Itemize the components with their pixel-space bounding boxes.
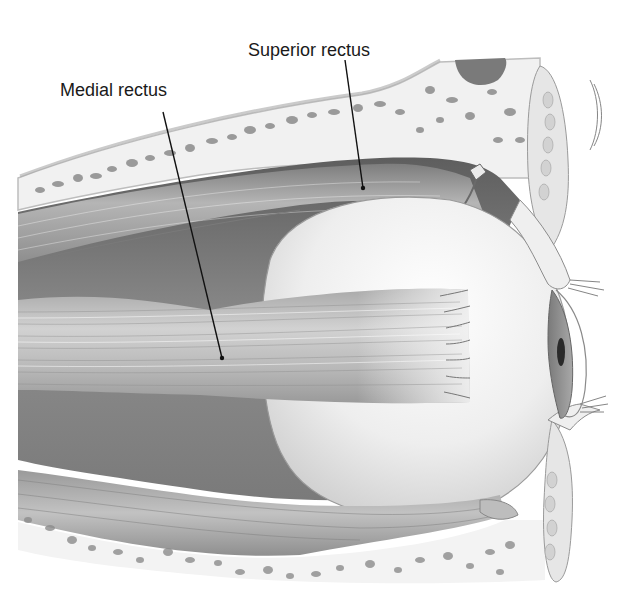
label-superior-rectus: Superior rectus [248, 40, 370, 60]
medial-rectus-muscle [18, 289, 470, 403]
leader-dot-superior-rectus [361, 186, 365, 190]
pupil [557, 338, 565, 366]
leader-dot-medial-rectus [220, 356, 224, 360]
label-medial-rectus: Medial rectus [60, 80, 167, 100]
